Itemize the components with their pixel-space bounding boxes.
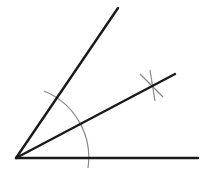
angle-bisector-diagram: Angle bisector construction xyxy=(0,0,201,176)
construction-arc xyxy=(44,91,89,168)
bisector-ray xyxy=(16,74,175,158)
upper-ray xyxy=(16,8,118,158)
